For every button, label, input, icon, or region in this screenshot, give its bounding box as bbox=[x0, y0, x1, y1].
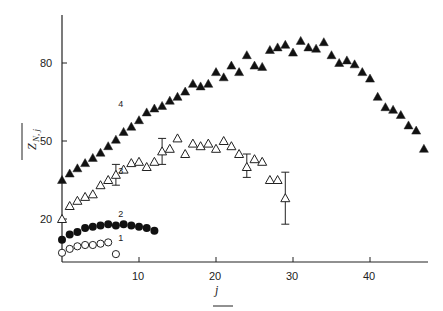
data-point-series-4 bbox=[389, 105, 398, 113]
data-point-series-4 bbox=[373, 92, 382, 100]
data-point-series-3 bbox=[142, 163, 151, 171]
data-point-series-4 bbox=[81, 159, 90, 167]
data-point-series-3 bbox=[104, 176, 113, 184]
data-point-series-4 bbox=[342, 56, 351, 64]
data-point-series-3 bbox=[135, 157, 144, 165]
data-point-series-1 bbox=[66, 245, 73, 252]
y-axis-title-main: Z bbox=[25, 143, 39, 150]
y-axis-title: Z N, j bbox=[25, 128, 41, 150]
data-point-series-3 bbox=[165, 144, 174, 152]
data-point-series-3 bbox=[88, 190, 97, 198]
series-label-2: 2 bbox=[118, 209, 123, 219]
data-point-series-4 bbox=[412, 126, 421, 134]
data-point-series-1 bbox=[112, 251, 119, 258]
data-point-series-4 bbox=[188, 79, 197, 87]
data-point-series-2 bbox=[104, 220, 112, 228]
data-point-series-4 bbox=[204, 79, 213, 87]
data-point-series-4 bbox=[289, 48, 298, 56]
data-point-series-4 bbox=[88, 153, 97, 161]
y-tick-label: 50 bbox=[40, 135, 52, 147]
x-tick-label: 10 bbox=[132, 270, 144, 282]
data-point-series-3 bbox=[235, 150, 244, 158]
data-point-series-4 bbox=[273, 43, 282, 51]
data-point-series-1 bbox=[89, 241, 96, 248]
data-point-series-3 bbox=[181, 150, 190, 158]
data-point-series-2 bbox=[89, 223, 97, 231]
error-bars bbox=[112, 138, 289, 224]
data-point-series-4 bbox=[396, 111, 405, 119]
data-point-series-3 bbox=[81, 192, 90, 200]
data-point-series-4 bbox=[212, 68, 221, 76]
data-point-series-4 bbox=[281, 40, 290, 48]
data-point-series-3 bbox=[196, 142, 205, 150]
data-point-series-3 bbox=[265, 176, 274, 184]
data-point-series-4 bbox=[173, 92, 182, 100]
data-point-series-4 bbox=[327, 51, 336, 59]
data-point-series-4 bbox=[242, 51, 251, 59]
data-point-series-3 bbox=[242, 163, 251, 171]
data-point-series-4 bbox=[296, 36, 305, 44]
data-point-series-3 bbox=[273, 176, 282, 184]
data-point-series-3 bbox=[250, 155, 259, 163]
series-label-3: 3 bbox=[118, 166, 123, 176]
data-point-series-4 bbox=[119, 127, 128, 135]
data-point-series-4 bbox=[158, 101, 167, 109]
data-point-series-3 bbox=[173, 134, 182, 142]
x-tick-label: 40 bbox=[363, 270, 375, 282]
ticks: 10203040205080 bbox=[40, 57, 375, 282]
y-tick-label: 80 bbox=[40, 57, 52, 69]
data-point-series-4 bbox=[227, 61, 236, 69]
data-point-series-4 bbox=[73, 164, 82, 172]
x-axis-title: j bbox=[213, 283, 219, 297]
data-point-series-4 bbox=[65, 169, 74, 177]
data-point-series-4 bbox=[335, 59, 344, 67]
data-point-series-3 bbox=[96, 181, 105, 189]
data-point-series-1 bbox=[58, 249, 65, 256]
data-point-series-3 bbox=[212, 144, 221, 152]
data-point-series-2 bbox=[81, 224, 89, 232]
y-axis-title-subscript: N, j bbox=[31, 128, 41, 143]
data-point-series-4 bbox=[419, 144, 428, 152]
data-point-series-4 bbox=[404, 121, 413, 129]
data-point-series-1 bbox=[105, 239, 112, 246]
chart-canvas: 10203040205080 1234 j Z N, j bbox=[0, 0, 443, 311]
data-point-series-2 bbox=[97, 222, 105, 230]
y-tick-label: 20 bbox=[40, 213, 52, 225]
data-point-series-4 bbox=[219, 73, 228, 81]
data-point-series-4 bbox=[135, 116, 144, 124]
data-point-series-4 bbox=[196, 82, 205, 90]
data-point-series-3 bbox=[219, 137, 228, 145]
data-point-series-2 bbox=[73, 228, 81, 236]
data-point-series-4 bbox=[150, 104, 159, 112]
data-point-series-3 bbox=[158, 147, 167, 155]
data-point-series-1 bbox=[97, 240, 104, 247]
data-point-series-4 bbox=[319, 38, 328, 46]
data-point-series-3 bbox=[65, 202, 74, 210]
data-point-series-2 bbox=[150, 227, 158, 235]
data-point-series-4 bbox=[358, 68, 367, 76]
data-point-series-1 bbox=[74, 243, 81, 250]
data-point-series-2 bbox=[112, 222, 120, 230]
data-point-series-4 bbox=[111, 135, 120, 143]
data-point-series-4 bbox=[265, 46, 274, 54]
data-point-series-2 bbox=[127, 222, 135, 230]
x-tick-label: 20 bbox=[209, 270, 221, 282]
data-point-series-2 bbox=[58, 236, 66, 244]
data-point-series-2 bbox=[143, 224, 151, 232]
data-point-series-3 bbox=[204, 139, 213, 147]
series-label-1: 1 bbox=[118, 233, 123, 243]
data-point-series-3 bbox=[227, 142, 236, 150]
series-label-4: 4 bbox=[118, 99, 123, 109]
data-point-series-3 bbox=[150, 157, 159, 165]
data-point-series-3 bbox=[258, 157, 267, 165]
data-point-series-2 bbox=[66, 231, 74, 239]
data-point-series-2 bbox=[120, 220, 128, 228]
data-point-series-1 bbox=[82, 241, 89, 248]
data-point-series-3 bbox=[188, 139, 197, 147]
data-point-series-4 bbox=[250, 61, 259, 69]
data-point-series-4 bbox=[258, 62, 267, 70]
data-point-series-2 bbox=[135, 223, 143, 231]
data-point-series-4 bbox=[181, 87, 190, 95]
data-point-series-4 bbox=[381, 103, 390, 111]
data-point-series-3 bbox=[281, 194, 290, 202]
